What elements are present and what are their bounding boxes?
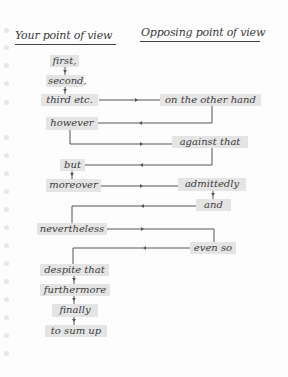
- phrase-admittedly: admittedly: [178, 178, 246, 191]
- phrase-but: but: [60, 159, 85, 171]
- phrase-on-the-other-hand: on the other hand: [160, 94, 261, 106]
- phrase-third-etc: third etc.: [41, 94, 98, 106]
- phrase-furthermore: furthermore: [40, 284, 110, 296]
- phrase-nevertheless: nevertheless: [37, 223, 107, 235]
- phrase-first: first,: [50, 55, 79, 67]
- phrase-to-sum-up: to sum up: [45, 325, 107, 337]
- phrase-moreover: moreover: [46, 179, 101, 192]
- phrase-even-so: even so: [190, 242, 236, 254]
- phrase-against-that: against that: [172, 136, 248, 148]
- phrase-however: however: [46, 117, 98, 130]
- phrase-finally: finally: [52, 304, 98, 317]
- phrase-second: second,: [46, 75, 84, 87]
- phrase-despite-that: despite that: [40, 264, 109, 276]
- phrase-and: and: [196, 199, 231, 211]
